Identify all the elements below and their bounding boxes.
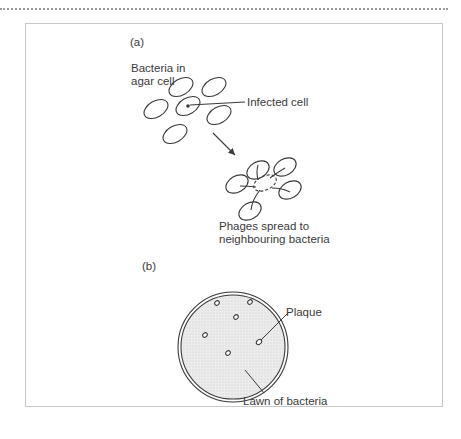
bacterium-icon xyxy=(160,121,191,148)
lawn-of-bacteria-label: Lawn of bacteria xyxy=(243,395,327,408)
bacterium-icon xyxy=(204,102,235,129)
bacteria-label-line1: Bacteria in xyxy=(131,62,185,75)
bacterium-icon xyxy=(271,154,300,180)
bacterium-icon xyxy=(141,96,172,123)
petri-dish xyxy=(178,292,288,402)
infected-cell-leader-line xyxy=(190,102,245,105)
spread-label-line2: neighbouring bacteria xyxy=(219,233,330,246)
panel-a-label: (a) xyxy=(130,36,144,49)
bacterium-icon xyxy=(199,74,230,101)
spread-label-line1: Phages spread to xyxy=(219,220,309,233)
bacteria-label-line2: agar cell xyxy=(131,75,174,88)
bacterium-icon xyxy=(276,177,305,203)
infected-cell-label: Infected cell xyxy=(247,96,308,109)
phage-spread-cluster xyxy=(223,154,305,224)
arrow-icon xyxy=(213,133,235,155)
plaque-label: Plaque xyxy=(286,306,322,319)
panel-b-label: (b) xyxy=(142,260,156,273)
